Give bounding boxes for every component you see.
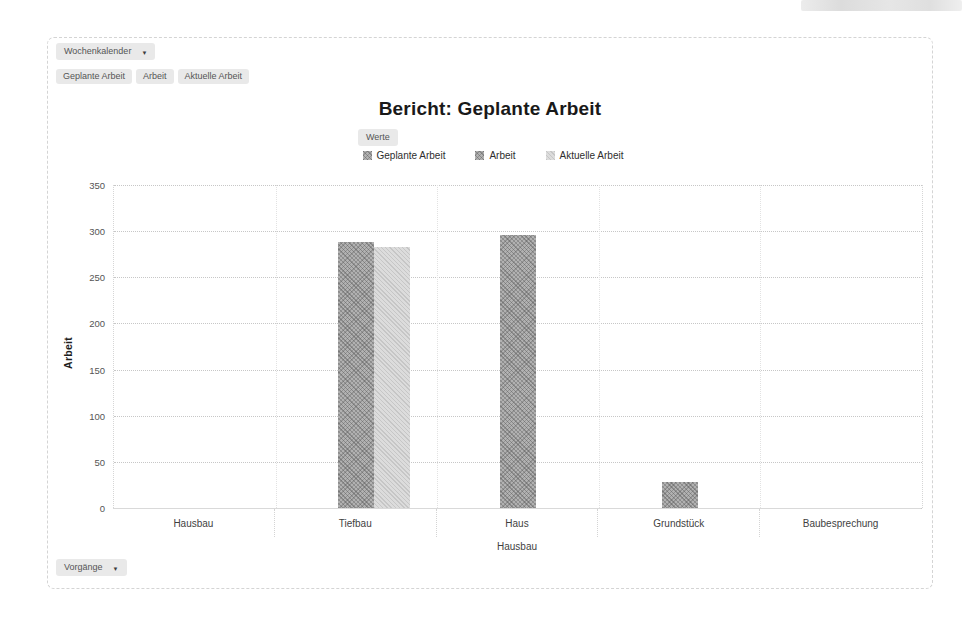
x-category-label-baubesprechung: Baubesprechung	[760, 509, 921, 537]
tasks-dropdown[interactable]: Vorgänge ▼	[56, 559, 127, 576]
legend-item-geplante-arbeit: Geplante Arbeit	[363, 150, 446, 161]
y-tick-label: 200	[65, 318, 105, 329]
y-tick-label: 350	[65, 180, 105, 191]
x-category-label-grundstück: Grundstück	[598, 509, 760, 537]
x-category-label-hausbau: Hausbau	[113, 509, 275, 537]
y-tick-label: 100	[65, 410, 105, 421]
x-axis-title: Hausbau	[113, 541, 921, 552]
category-boundary-line	[276, 185, 277, 508]
gridline	[114, 231, 922, 232]
report-panel: Wochenkalender ▼ Geplante Arbeit Arbeit …	[47, 37, 933, 589]
field-chip-list: Geplante Arbeit Arbeit Aktuelle Arbeit	[56, 69, 249, 84]
x-category-label-haus: Haus	[437, 509, 599, 537]
field-chip-arbeit[interactable]: Arbeit	[136, 69, 174, 84]
chart-legend: Geplante Arbeit Arbeit Aktuelle Arbeit	[113, 150, 873, 161]
legend-swatch-icon	[546, 151, 555, 160]
bar-chart-plot: 050100150200250300350	[113, 185, 923, 508]
chevron-down-icon: ▼	[113, 565, 119, 571]
chevron-down-icon: ▼	[141, 49, 147, 55]
screenshot-artifact	[801, 0, 962, 11]
bar-arbeit-grundstück	[662, 482, 698, 508]
legend-swatch-icon	[475, 151, 484, 160]
field-chip-geplante-arbeit[interactable]: Geplante Arbeit	[56, 69, 132, 84]
legend-item-aktuelle-arbeit: Aktuelle Arbeit	[546, 150, 624, 161]
calendar-dropdown[interactable]: Wochenkalender ▼	[56, 43, 155, 60]
y-tick-label: 150	[65, 364, 105, 375]
tasks-dropdown-label: Vorgänge	[64, 563, 103, 572]
x-category-label-tiefbau: Tiefbau	[275, 509, 437, 537]
legend-item-arbeit: Arbeit	[475, 150, 515, 161]
bar-arbeit-haus	[500, 235, 536, 508]
calendar-dropdown-label: Wochenkalender	[64, 47, 131, 56]
legend-label: Arbeit	[489, 150, 515, 161]
field-chip-aktuelle-arbeit[interactable]: Aktuelle Arbeit	[178, 69, 250, 84]
category-boundary-line	[760, 185, 761, 508]
gridline	[114, 185, 922, 186]
y-tick-label: 250	[65, 272, 105, 283]
y-tick-label: 0	[65, 503, 105, 514]
legend-label: Aktuelle Arbeit	[560, 150, 624, 161]
category-boundary-line	[599, 185, 600, 508]
report-title: Bericht: Geplante Arbeit	[48, 98, 932, 120]
y-tick-label: 50	[65, 456, 105, 467]
bar-arbeit-tiefbau	[338, 242, 374, 508]
category-boundary-line	[437, 185, 438, 508]
legend-swatch-icon	[363, 151, 372, 160]
bar-aktuelle-arbeit-tiefbau	[374, 247, 410, 508]
legend-label: Geplante Arbeit	[377, 150, 446, 161]
y-tick-label: 300	[65, 226, 105, 237]
x-category-row: HausbauTiefbauHausGrundstückBaubesprechu…	[113, 508, 921, 537]
values-chip[interactable]: Werte	[358, 129, 398, 146]
